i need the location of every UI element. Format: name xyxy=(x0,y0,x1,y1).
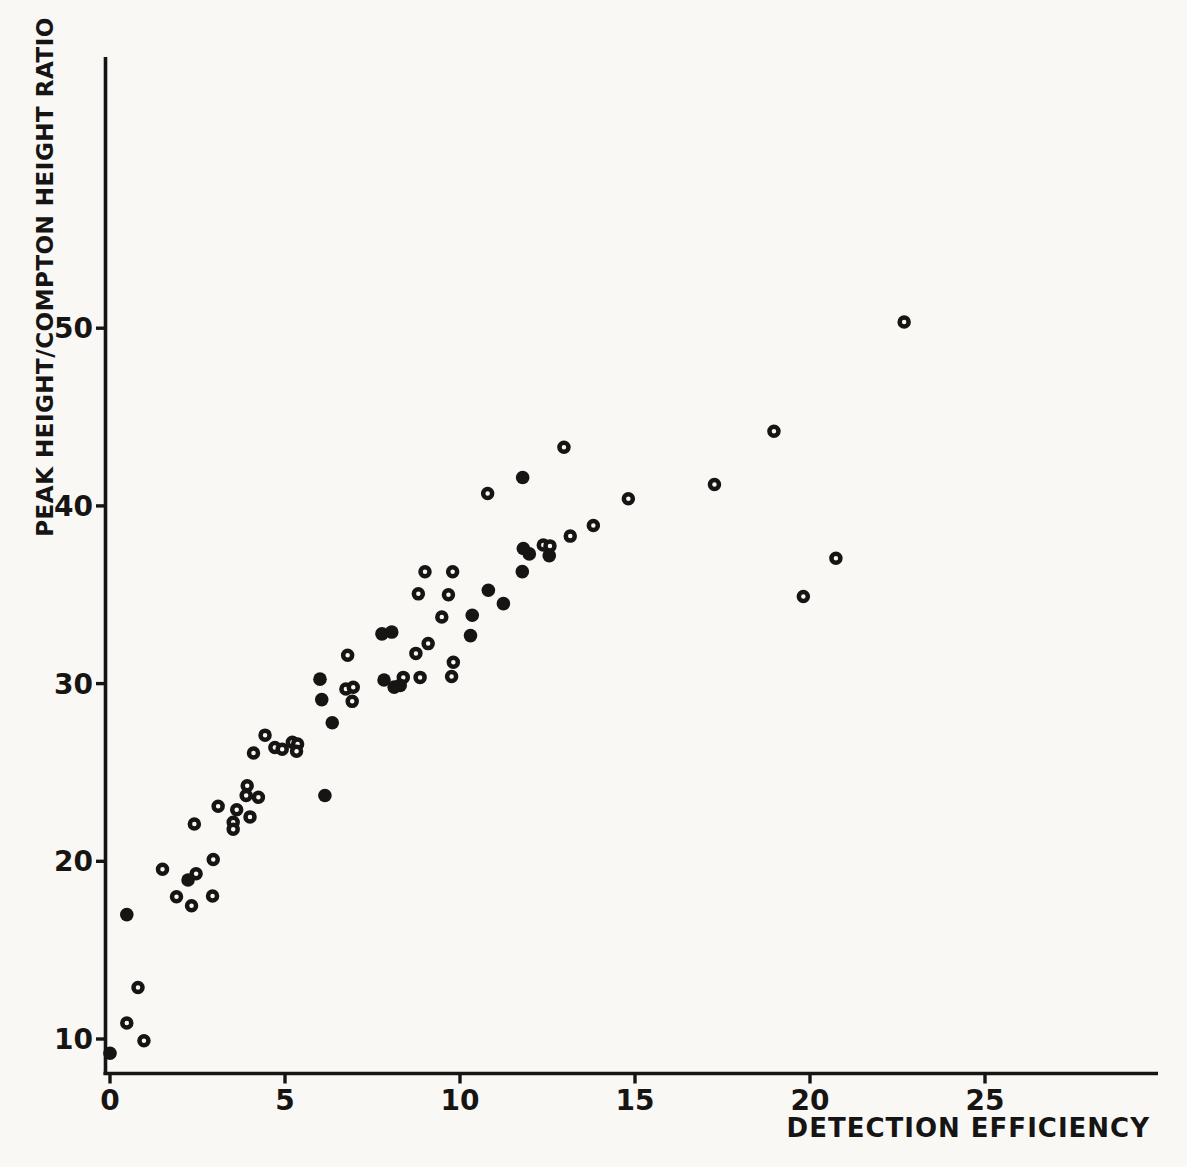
scatter-plot: 1020304050 0510152025 PEAK HEIGHT/COMPTO… xyxy=(0,0,1187,1167)
data-point-open xyxy=(900,317,909,326)
data-point-filled xyxy=(465,608,479,622)
data-point-filled xyxy=(318,789,332,803)
data-point-filled xyxy=(523,547,537,561)
y-axis-label: PEAK HEIGHT/COMPTON HEIGHT RATIO xyxy=(32,17,58,536)
data-point-filled xyxy=(516,565,530,579)
data-point-open xyxy=(172,892,181,901)
x-tick-label: 10 xyxy=(441,1084,480,1117)
data-point-open xyxy=(249,748,258,757)
data-point-open xyxy=(278,745,287,754)
data-point-open xyxy=(214,802,223,811)
data-point-open xyxy=(229,825,238,834)
data-point-open xyxy=(246,812,255,821)
data-point-open xyxy=(414,589,423,598)
data-point-filled xyxy=(393,679,407,693)
data-point-open xyxy=(831,554,840,563)
y-tick-label: 10 xyxy=(54,1023,93,1056)
data-point-filled xyxy=(516,471,530,485)
data-point-open xyxy=(411,649,420,658)
x-axis: 0510152025 xyxy=(100,1074,1158,1118)
data-point-open xyxy=(348,697,357,706)
x-axis-label: DETECTION EFFICIENCY xyxy=(787,1113,1151,1143)
data-point-open xyxy=(449,658,458,667)
data-point-open xyxy=(254,793,263,802)
data-point-filled xyxy=(542,549,556,563)
data-point-open xyxy=(158,865,167,874)
y-tick-label: 50 xyxy=(54,312,93,345)
data-point-open xyxy=(769,427,778,436)
data-points-filled xyxy=(103,471,556,1060)
data-point-filled xyxy=(464,629,478,643)
data-point-open xyxy=(589,521,598,530)
data-point-open xyxy=(799,592,808,601)
data-point-open xyxy=(292,747,301,756)
data-point-open xyxy=(448,567,457,576)
x-tick-label: 5 xyxy=(275,1084,294,1117)
data-point-open xyxy=(209,855,218,864)
data-point-open xyxy=(343,651,352,660)
data-point-open xyxy=(122,1019,131,1028)
y-ticks: 1020304050 xyxy=(54,312,105,1056)
data-point-filled xyxy=(120,908,134,922)
data-point-open xyxy=(437,612,446,621)
x-ticks: 0510152025 xyxy=(100,1074,1004,1118)
x-tick-label: 0 xyxy=(100,1084,119,1117)
x-tick-label: 15 xyxy=(616,1084,655,1117)
data-point-open xyxy=(261,731,270,740)
data-point-open xyxy=(447,672,456,681)
data-point-open xyxy=(242,791,251,800)
data-point-open xyxy=(349,683,358,692)
data-point-open xyxy=(421,567,430,576)
data-point-filled xyxy=(482,584,496,598)
data-point-filled xyxy=(325,716,339,730)
data-point-open xyxy=(134,983,143,992)
data-point-filled xyxy=(181,873,195,887)
data-point-open xyxy=(424,639,433,648)
scanned-figure-page: 1020304050 0510152025 PEAK HEIGHT/COMPTO… xyxy=(0,0,1187,1167)
data-points-open xyxy=(122,317,908,1045)
y-axis: 1020304050 xyxy=(54,57,105,1075)
data-point-open xyxy=(187,901,196,910)
data-point-filled xyxy=(497,597,511,611)
data-point-open xyxy=(566,532,575,541)
data-point-filled xyxy=(385,625,399,639)
data-point-open xyxy=(483,489,492,498)
data-point-open xyxy=(710,480,719,489)
data-point-filled xyxy=(315,693,329,707)
y-tick-label: 20 xyxy=(54,845,93,878)
data-point-open xyxy=(416,673,425,682)
data-point-open xyxy=(139,1036,148,1045)
data-point-open xyxy=(444,590,453,599)
data-point-filled xyxy=(103,1046,117,1060)
data-point-open xyxy=(559,443,568,452)
y-tick-label: 30 xyxy=(54,668,93,701)
data-point-filled xyxy=(313,672,327,686)
data-point-open xyxy=(190,819,199,828)
y-tick-label: 40 xyxy=(54,490,93,523)
data-point-open xyxy=(208,891,217,900)
data-point-open xyxy=(232,805,241,814)
data-point-open xyxy=(624,494,633,503)
